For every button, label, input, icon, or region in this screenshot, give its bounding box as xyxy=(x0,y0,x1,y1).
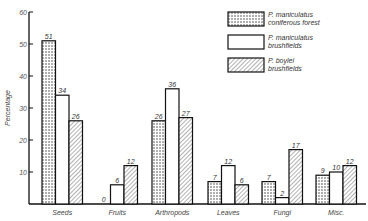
y-tick-label: 30 xyxy=(19,105,27,112)
bar-value-label: 6 xyxy=(240,177,244,184)
bar-group-misc: 91012Misc. xyxy=(316,158,357,216)
bar-value-label: 26 xyxy=(71,113,80,120)
y-tick-label: 60 xyxy=(19,9,27,16)
bar xyxy=(69,121,83,204)
bar-value-label: 6 xyxy=(115,177,119,184)
legend-swatch xyxy=(228,58,264,72)
bar-value-label: 12 xyxy=(224,158,232,165)
bar xyxy=(166,89,180,204)
bar xyxy=(56,95,70,204)
bar xyxy=(316,175,330,204)
x-category-label: Fruits xyxy=(109,209,127,216)
y-axis-label: Percentage xyxy=(4,90,12,126)
diet-percentage-bar-chart: 102030405060Percentage 513426Seeds0612Fr… xyxy=(0,0,368,221)
bar-group-fruits: 0612Fruits xyxy=(102,158,138,216)
y-tick-label: 20 xyxy=(18,137,27,144)
bar xyxy=(42,41,56,204)
y-tick-label: 50 xyxy=(19,41,27,48)
bar-value-label: 26 xyxy=(154,113,163,120)
bar-value-label: 0 xyxy=(102,196,106,203)
bar-group-arthropods: 263627Arthropods xyxy=(152,81,193,217)
x-category-label: Seeds xyxy=(52,209,72,216)
legend-item: P. maniculatusbrushfields xyxy=(228,34,314,49)
x-category-label: Leaves xyxy=(217,209,240,216)
bar xyxy=(330,172,344,204)
legend-label: P. boylei xyxy=(268,57,294,65)
bar-value-label: 12 xyxy=(127,158,135,165)
legend-label: brushfields xyxy=(268,42,302,49)
bar-value-label: 10 xyxy=(332,164,340,171)
bar xyxy=(276,198,290,204)
legend-label: P. maniculatus xyxy=(268,11,314,18)
bar-value-label: 2 xyxy=(279,190,284,197)
bar-value-label: 7 xyxy=(213,174,218,181)
bar xyxy=(262,182,276,204)
bar-value-label: 9 xyxy=(321,167,325,174)
bar xyxy=(124,166,138,204)
legend-label: P. maniculatus xyxy=(268,34,314,41)
bar-value-label: 51 xyxy=(45,33,53,40)
bar xyxy=(179,118,193,204)
bar xyxy=(208,182,222,204)
bar-group-fungi: 7217Fungi xyxy=(262,142,303,217)
legend-swatch xyxy=(228,12,264,26)
chart-bars: 513426Seeds0612Fruits263627Arthropods712… xyxy=(42,33,357,217)
legend-item: P. boyleibrushfields xyxy=(228,57,302,72)
bar xyxy=(222,166,236,204)
bar xyxy=(152,121,166,204)
bar-value-label: 36 xyxy=(168,81,176,88)
chart-legend: P. maniculatusconiferous forestP. manicu… xyxy=(228,11,321,72)
bar-value-label: 17 xyxy=(292,142,301,149)
legend-label: brushfields xyxy=(268,65,302,72)
bar-value-label: 12 xyxy=(346,158,354,165)
y-tick-label: 40 xyxy=(19,73,27,80)
bar xyxy=(343,166,357,204)
x-category-label: Misc. xyxy=(328,209,344,216)
bar-value-label: 7 xyxy=(267,174,272,181)
bar-group-leaves: 7126Leaves xyxy=(208,158,249,216)
y-tick-label: 10 xyxy=(19,169,27,176)
bar-value-label: 27 xyxy=(181,110,191,117)
legend-swatch xyxy=(228,35,264,49)
bar-value-label: 34 xyxy=(58,87,66,94)
bar xyxy=(111,185,125,204)
x-category-label: Fungi xyxy=(273,209,291,217)
bar xyxy=(235,185,249,204)
bar-group-seeds: 513426Seeds xyxy=(42,33,83,216)
legend-label: coniferous forest xyxy=(268,19,321,26)
bar xyxy=(289,150,303,204)
x-category-label: Arthropods xyxy=(154,209,190,217)
legend-item: P. maniculatusconiferous forest xyxy=(228,11,321,26)
